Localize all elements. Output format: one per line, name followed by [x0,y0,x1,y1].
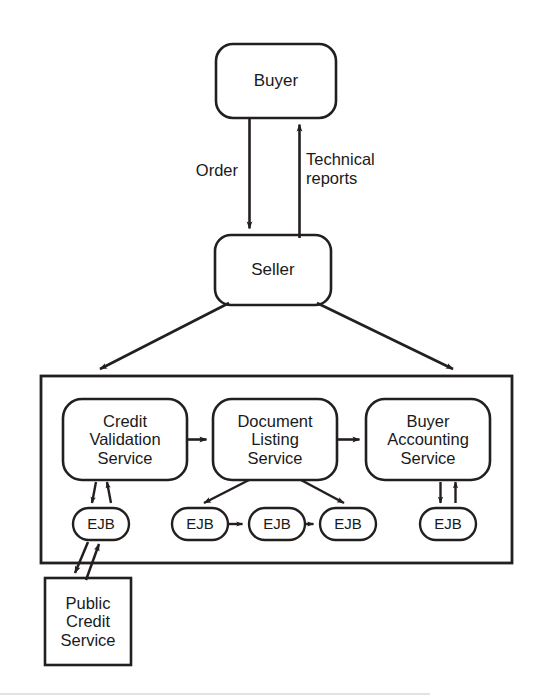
buyer-accounting-service-node[interactable] [366,399,490,480]
diagram-canvas: Buyer Seller Order Technical reports Cre… [0,0,546,699]
ejb-credit-validation-node[interactable] [73,508,129,540]
ejb-document-listing-3-node[interactable] [320,508,376,540]
edge-seller-to-container-right [317,303,453,369]
edge-ejb-to-public-credit-service [75,542,88,573]
ejb-buyer-accounting-node[interactable] [420,508,476,540]
diagram-vector-layer [0,0,546,699]
public-credit-service-node[interactable] [45,578,131,665]
ejb-document-listing-1-node[interactable] [172,508,228,540]
ejb-document-listing-2-node[interactable] [249,508,305,540]
seller-node[interactable] [215,235,331,305]
edge-ejb-to-credit-validation [107,482,111,503]
document-listing-service-node[interactable] [213,399,337,480]
edge-seller-to-container-left [100,303,229,369]
buyer-node[interactable] [216,44,336,118]
edge-credit-validation-to-ejb [92,482,96,503]
credit-validation-service-node[interactable] [63,399,187,480]
edge-document-listing-to-ejb-3 [301,480,344,503]
edge-document-listing-to-ejb-1 [204,480,249,503]
